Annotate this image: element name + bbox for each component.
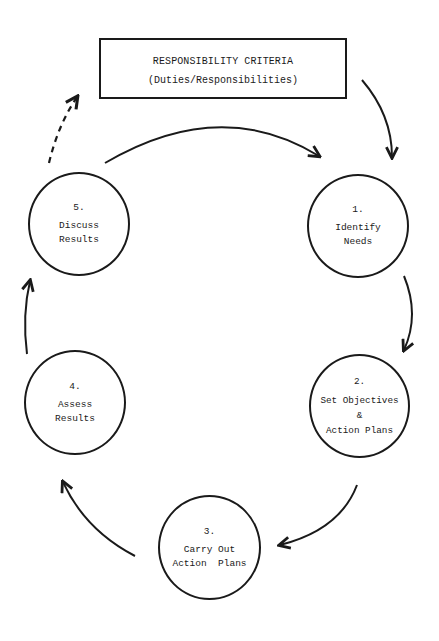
step-label-line2: Results <box>55 412 95 426</box>
step-label-line2: Action Plans <box>326 423 393 438</box>
arrow-step5-to-step1 <box>105 127 319 163</box>
arrow-step3-to-step4 <box>63 482 135 556</box>
step-label-line1: Discuss <box>59 219 99 233</box>
step-label-line2: Results <box>59 233 99 247</box>
step-label-line1: Set Objectives <box>320 393 398 408</box>
diagram-canvas: RESPONSIBILITY CRITERIA (Duties/Responsi… <box>0 0 439 641</box>
responsibility-criteria-box: RESPONSIBILITY CRITERIA (Duties/Responsi… <box>99 38 347 99</box>
step-4-assess-results: 4. Assess Results <box>24 350 126 455</box>
step-label-ampersand: & <box>357 408 363 423</box>
arrow-step4-to-step5 <box>25 281 30 354</box>
step-2-set-objectives: 2. Set Objectives & Action Plans <box>309 354 410 458</box>
criteria-title: RESPONSIBILITY CRITERIA <box>101 52 345 71</box>
step-number: 1. <box>352 203 363 217</box>
step-label-line2: Needs <box>344 235 373 249</box>
step-label-line1: Identify <box>335 221 381 235</box>
step-number: 3. <box>204 525 215 539</box>
step-label-line2: Action Plans <box>172 557 246 571</box>
step-number: 2. <box>354 374 365 389</box>
arrow-step5-to-criteria-dashed <box>49 97 77 163</box>
step-3-carry-out-action-plans: 3. Carry Out Action Plans <box>158 495 261 600</box>
step-1-identify-needs: 1. Identify Needs <box>307 174 409 278</box>
arrow-criteria-to-step1 <box>362 80 392 157</box>
step-number: 4. <box>69 380 80 394</box>
step-label-line1: Assess <box>58 398 92 412</box>
step-5-discuss-results: 5. Discuss Results <box>28 172 130 276</box>
criteria-subtitle: (Duties/Responsibilities) <box>101 71 345 90</box>
step-label-line1: Carry Out <box>184 543 235 557</box>
step-number: 5. <box>73 201 84 215</box>
arrow-step1-to-step2 <box>404 276 412 350</box>
arrow-step2-to-step3 <box>280 485 357 545</box>
